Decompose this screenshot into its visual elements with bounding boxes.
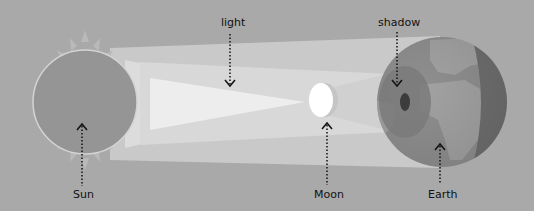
sun (33, 50, 137, 154)
moon-label: Moon (314, 188, 344, 201)
shadow-label: shadow (378, 16, 420, 29)
eclipse-diagram (0, 0, 534, 211)
sun-label: Sun (73, 188, 94, 201)
light-label: light (221, 16, 245, 29)
earth-label: Earth (428, 188, 458, 201)
moon (309, 83, 338, 117)
umbra (400, 93, 410, 111)
